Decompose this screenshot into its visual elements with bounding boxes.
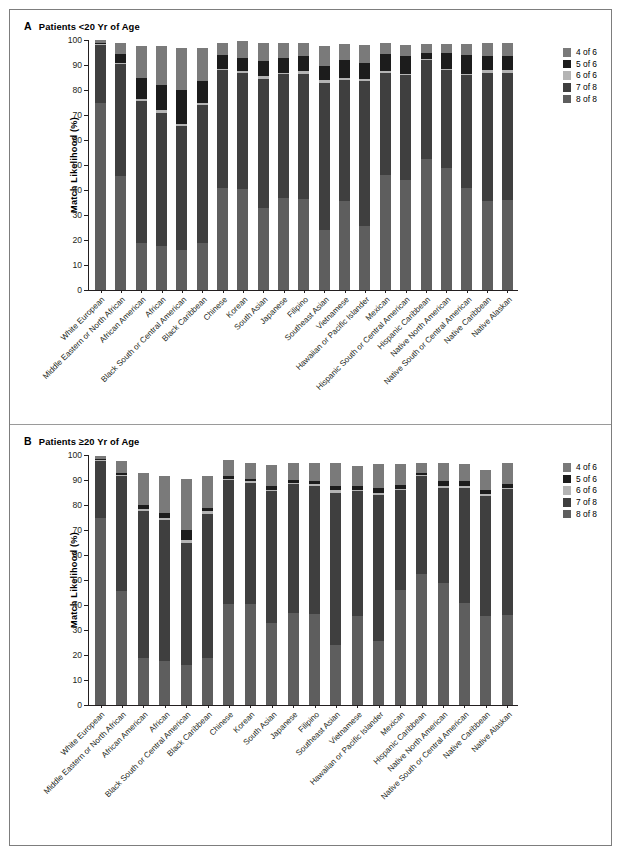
bar-segment (380, 73, 391, 176)
stacked-bar (138, 473, 149, 706)
bar-segment (502, 489, 513, 615)
bar-segment (181, 543, 192, 666)
panel-a-legend: 4 of 65 of 66 of 67 of 88 of 8 (563, 48, 597, 103)
bar-segment (380, 54, 391, 72)
panel-b-y-tick-label: 40 (72, 601, 82, 610)
bar-segment (245, 604, 256, 705)
stacked-bar (441, 44, 452, 290)
bar-segment (197, 243, 208, 291)
bar-column (95, 455, 106, 705)
stacked-bar (159, 476, 170, 705)
bar-segment (298, 56, 309, 71)
panel-b-y-tick-label: 100 (68, 451, 82, 460)
bar-segment (278, 43, 289, 58)
panel-a-header: A Patients <20 Yr of Age (24, 20, 140, 32)
bar-segment (176, 250, 187, 290)
bar-column (359, 40, 370, 290)
bar-segment (482, 201, 493, 290)
bar-column (258, 40, 269, 290)
bar-segment (278, 74, 289, 198)
panel-b-y-tick-mark (84, 455, 88, 456)
x-tick-mark (159, 705, 170, 708)
panel-a-y-tick-label: 70 (72, 111, 82, 120)
bar-segment (482, 73, 493, 202)
x-tick-mark (95, 705, 106, 708)
panel-b-y-tick-label: 20 (72, 651, 82, 660)
stacked-bar (373, 464, 384, 705)
bar-segment (421, 60, 432, 159)
stacked-bar (395, 464, 406, 705)
bar-segment (159, 661, 170, 705)
bar-segment (502, 43, 513, 57)
bar-column (217, 40, 228, 290)
stacked-bar (181, 479, 192, 705)
bar-segment (441, 70, 452, 168)
bar-column (245, 455, 256, 705)
legend-swatch (563, 48, 572, 57)
x-tick-mark (421, 290, 432, 293)
x-tick-mark (197, 290, 208, 293)
bar-segment (266, 491, 277, 622)
stacked-bar (482, 43, 493, 291)
bar-segment (258, 79, 269, 208)
bar-segment (380, 43, 391, 54)
bar-segment (156, 46, 167, 85)
bar-segment (352, 616, 363, 705)
bar-segment (461, 188, 472, 291)
panel-a-y-tick-label: 30 (72, 211, 82, 220)
bar-segment (116, 591, 127, 705)
stacked-bar (421, 44, 432, 290)
bar-column (278, 40, 289, 290)
bar-segment (502, 615, 513, 705)
bar-segment (245, 463, 256, 479)
legend-item: 5 of 6 (563, 60, 597, 69)
legend-item: 7 of 8 (563, 498, 597, 507)
x-tick-mark (359, 290, 370, 293)
legend-item: 4 of 6 (563, 48, 597, 57)
panel-a-y-tick-label: 50 (72, 161, 82, 170)
bar-column (176, 40, 187, 290)
bar-segment (480, 496, 491, 616)
bar-segment (136, 46, 147, 77)
x-tick-mark (438, 705, 449, 708)
panel-b-plot: Match Likelihood (%) 0102030405060708090… (88, 455, 518, 705)
bar-segment (136, 101, 147, 242)
legend-swatch (563, 71, 572, 80)
bar-column (373, 455, 384, 705)
bar-segment (115, 43, 126, 54)
x-tick-mark (136, 290, 147, 293)
stacked-bar (461, 44, 472, 290)
bar-segment (298, 74, 309, 199)
panel-b-y-tick-mark (84, 680, 88, 681)
panel-a: A Patients <20 Yr of Age Match Likelihoo… (10, 10, 611, 424)
bar-segment (115, 64, 126, 177)
legend-label: 4 of 6 (576, 463, 597, 471)
bar-column (197, 40, 208, 290)
stacked-bar (156, 46, 167, 290)
stacked-bar (502, 463, 513, 706)
bar-segment (288, 463, 299, 481)
x-tick-mark (115, 290, 126, 293)
bar-column (116, 455, 127, 705)
bar-segment (181, 530, 192, 540)
stacked-bar (480, 470, 491, 705)
bar-segment (159, 520, 170, 661)
bar-segment (176, 126, 187, 250)
stacked-bar (380, 43, 391, 291)
bar-segment (339, 80, 350, 201)
stacked-bar (416, 463, 427, 706)
stacked-bar (502, 43, 513, 291)
bar-segment (395, 464, 406, 485)
legend-swatch (563, 83, 572, 92)
bar-segment (266, 465, 277, 486)
bar-segment (156, 85, 167, 110)
legend-item: 5 of 6 (563, 475, 597, 484)
panel-b-y-tick-mark (84, 605, 88, 606)
bar-column (459, 455, 470, 705)
bar-column (138, 455, 149, 705)
legend-swatch (563, 463, 572, 472)
bar-segment (359, 63, 370, 79)
panel-a-y-tick-label: 90 (72, 61, 82, 70)
panel-a-y-tick-mark (84, 115, 88, 116)
bar-segment (223, 460, 234, 476)
